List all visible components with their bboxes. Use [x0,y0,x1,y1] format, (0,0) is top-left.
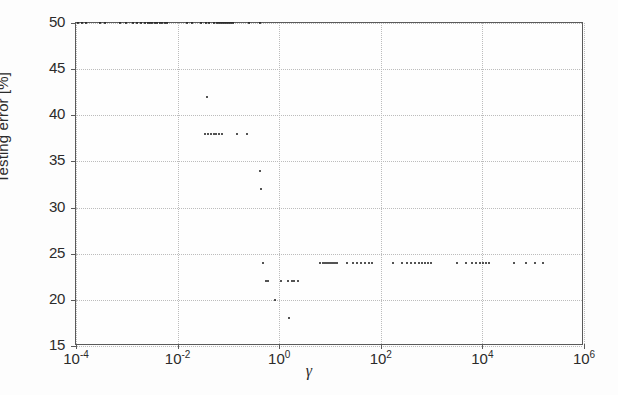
data-point [267,280,269,282]
data-point [542,262,544,264]
data-point [262,262,264,264]
y-tick-mark [71,208,76,209]
data-point [371,262,373,264]
data-point [236,133,238,135]
x-tick-mark [76,344,77,349]
x-tick-mark [381,344,382,349]
data-point [85,22,87,24]
data-point [513,262,515,264]
data-point [125,22,127,24]
data-point [297,280,299,282]
data-point [274,299,276,301]
data-point [418,262,420,264]
gridline-horizontal [76,254,582,255]
data-point [213,22,215,24]
gridline-vertical [76,23,77,344]
data-point [475,262,477,264]
x-axis-title: γ [0,362,618,380]
data-point [465,262,467,264]
data-point [471,262,473,264]
data-point [77,22,79,24]
data-point [287,280,289,282]
gridline-horizontal [76,161,582,162]
data-point [205,22,207,24]
data-point [186,22,188,24]
data-point [401,262,403,264]
data-point [406,262,408,264]
data-point [259,22,261,24]
data-point [424,262,426,264]
data-point [207,133,209,135]
data-point [364,262,366,264]
gridline-vertical [482,23,483,344]
data-point [232,22,234,24]
x-tick-mark [279,344,280,349]
data-point [215,133,217,135]
gridline-horizontal [76,346,582,347]
y-axis-title: Testing error [%] [0,72,11,183]
data-point [336,262,338,264]
gridline-horizontal [76,300,582,301]
x-tick-mark [584,344,585,349]
y-tick-label: 40 [17,105,65,122]
data-point [119,22,121,24]
data-point [140,22,142,24]
data-point [485,262,487,264]
data-point [488,262,490,264]
data-point [208,22,210,24]
y-tick-mark [71,115,76,116]
data-point [104,22,106,24]
data-point [414,262,416,264]
y-tick-mark [71,69,76,70]
data-point [99,22,101,24]
data-point [392,262,394,264]
chart-figure: 152025303540455010-410-2100102104106 Tes… [0,0,618,395]
data-point [213,133,215,135]
x-tick-mark [482,344,483,349]
data-point [191,22,193,24]
data-point [356,262,358,264]
data-point [410,262,412,264]
data-point [482,262,484,264]
y-tick-label: 20 [17,290,65,307]
gridline-horizontal [76,115,582,116]
y-tick-label: 45 [17,59,65,76]
data-point [210,133,212,135]
data-point [430,262,432,264]
data-point [360,262,362,264]
gridline-vertical [381,23,382,344]
data-point [136,22,138,24]
gridline-vertical [279,23,280,344]
gridline-vertical [584,23,585,344]
data-point [246,133,248,135]
data-point [221,133,223,135]
data-point [346,262,348,264]
plot-area: 152025303540455010-410-2100102104106 [75,22,583,345]
data-point [352,262,354,264]
data-point [456,262,458,264]
gridline-horizontal [76,208,582,209]
data-point [421,262,423,264]
y-tick-label: 35 [17,151,65,168]
data-point [293,280,295,282]
y-tick-label: 50 [17,13,65,30]
data-point [479,262,481,264]
y-tick-mark [71,300,76,301]
data-point [525,262,527,264]
x-tick-mark [178,344,179,349]
data-point [166,22,168,24]
data-point [368,262,370,264]
data-point [81,22,83,24]
data-point [144,22,146,24]
data-point [132,22,134,24]
data-point [259,170,261,172]
data-point [248,22,250,24]
data-point [534,262,536,264]
data-point [206,96,208,98]
y-tick-mark [71,254,76,255]
gridline-vertical [178,23,179,344]
gridline-horizontal [76,69,582,70]
data-point [288,317,290,319]
data-point [204,133,206,135]
y-tick-mark [71,161,76,162]
